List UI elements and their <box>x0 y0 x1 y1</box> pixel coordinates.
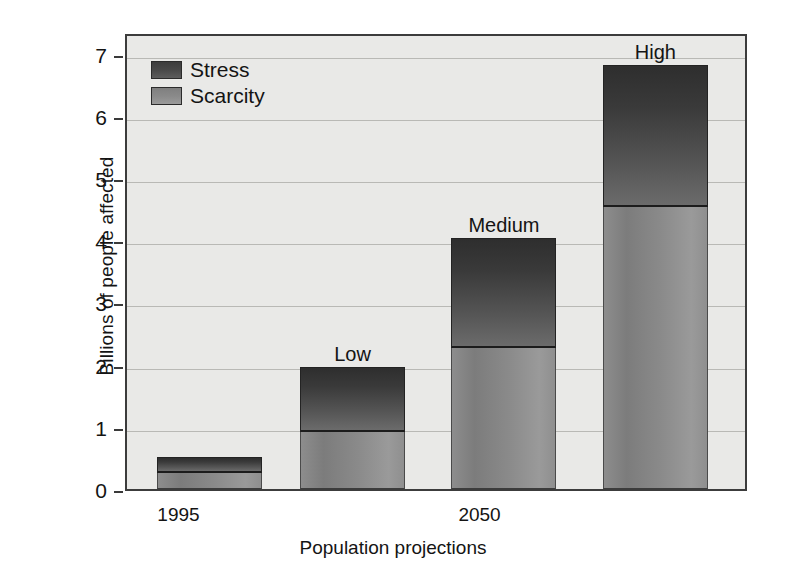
y-tick-label: 4 <box>73 231 107 252</box>
legend-label-stress: Stress <box>190 59 250 80</box>
legend-swatch-stress-icon <box>151 61 182 79</box>
bar-segment-scarcity[interactable] <box>603 207 708 489</box>
y-tick-mark <box>114 118 123 120</box>
y-tick-mark <box>114 367 123 369</box>
y-tick-mark <box>114 180 123 182</box>
x-tick-label: 2050 <box>420 504 540 526</box>
y-tick-label: 5 <box>73 169 107 190</box>
legend-label-scarcity: Scarcity <box>190 85 265 106</box>
y-tick-label: 0 <box>73 480 107 501</box>
legend-item-stress: Stress <box>151 57 265 82</box>
y-tick-mark <box>114 304 123 306</box>
y-tick-mark <box>114 429 123 431</box>
x-axis-label: Population projections <box>0 537 786 559</box>
y-tick-mark <box>114 491 123 493</box>
bar-low[interactable] <box>300 367 405 489</box>
y-tick-label: 2 <box>73 356 107 377</box>
y-tick-mark <box>114 242 123 244</box>
chart-figure: Billions of people affected 01234567 Low… <box>0 0 786 575</box>
bar-segment-stress[interactable] <box>603 65 708 207</box>
y-tick-label: 7 <box>73 45 107 66</box>
bar-segment-stress[interactable] <box>157 457 262 473</box>
bar-segment-stress[interactable] <box>300 367 405 432</box>
bar-segment-scarcity[interactable] <box>157 473 262 489</box>
y-tick-mark <box>114 56 123 58</box>
bar-label-low: Low <box>263 343 442 366</box>
legend-swatch-scarcity-icon <box>151 87 182 105</box>
bar-label-high: High <box>566 41 745 64</box>
bar-label-medium: Medium <box>414 214 593 237</box>
legend-item-scarcity: Scarcity <box>151 83 265 108</box>
bar-segment-scarcity[interactable] <box>451 348 556 489</box>
y-tick-label: 6 <box>73 107 107 128</box>
bar-segment-scarcity[interactable] <box>300 432 405 489</box>
bar-segment-stress[interactable] <box>451 238 556 347</box>
bar-high[interactable] <box>603 65 708 489</box>
plot-area: LowMediumHigh Stress Scarcity <box>125 34 747 491</box>
chart-legend: Stress Scarcity <box>151 57 265 109</box>
bar-1995[interactable] <box>157 457 262 489</box>
x-tick-label: 1995 <box>118 504 238 526</box>
bar-medium[interactable] <box>451 238 556 489</box>
y-tick-label: 1 <box>73 418 107 439</box>
y-tick-label: 3 <box>73 293 107 314</box>
